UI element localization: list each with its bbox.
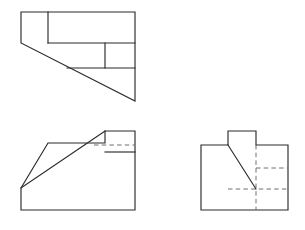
orthographic-drawing-canvas	[0, 0, 305, 230]
